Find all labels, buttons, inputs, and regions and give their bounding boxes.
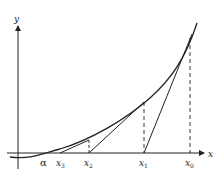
iterate-x3-label: x3 [56,158,65,169]
iterate-x0-label: x0 [185,158,194,169]
x-axis-label: x [208,149,213,159]
iterate-x2-label: x2 [84,158,93,169]
tangent-line-2 [60,140,89,153]
iterate-x1-label: x1 [139,158,148,169]
root-alpha-label: α [40,157,47,168]
diagram-canvas: y x α x3 x2 x1 x0 [0,0,222,176]
tangent-line-0 [144,34,192,153]
y-axis-label: y [13,14,20,24]
newton-method-diagram: y x α x3 x2 x1 x0 [0,0,222,176]
tangent-line-1 [89,102,144,153]
